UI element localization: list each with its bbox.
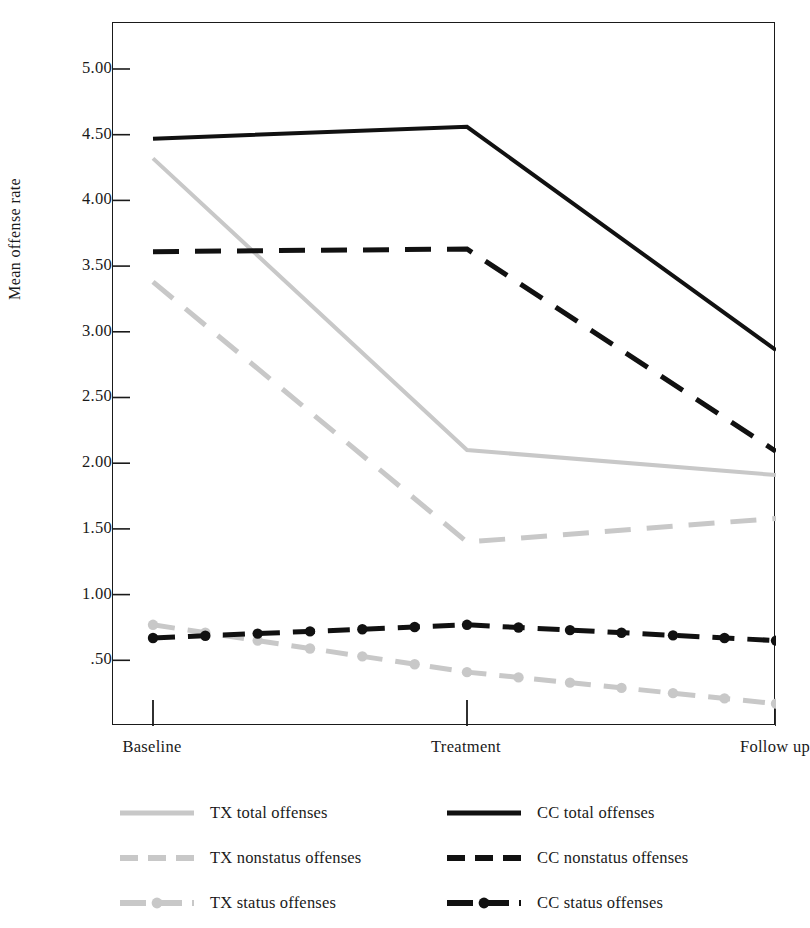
series-marker xyxy=(252,628,262,638)
series-marker xyxy=(616,628,626,638)
legend-swatch-dashed-icon xyxy=(445,851,523,865)
series-marker xyxy=(409,659,419,669)
legend-item[interactable]: TX total offenses xyxy=(118,790,361,835)
series-marker xyxy=(513,622,523,632)
legend-swatch-dash-dot-icon xyxy=(118,896,196,910)
series-line xyxy=(153,127,776,350)
series-marker xyxy=(771,635,776,645)
legend-swatch-dash-dot-icon xyxy=(445,896,523,910)
y-axis-tick-labels: 5.004.504.003.503.002.502.001.501.00.50 xyxy=(0,0,112,928)
series-marker xyxy=(565,625,575,635)
y-axis-tick-label: .50 xyxy=(20,649,112,669)
series-marker xyxy=(148,633,158,643)
series-marker xyxy=(668,688,678,698)
legend-swatch-dashed-icon xyxy=(118,851,196,865)
y-axis-tick-label: 5.00 xyxy=(20,58,112,78)
legend-item[interactable]: CC total offenses xyxy=(445,790,688,835)
legend-label: TX nonstatus offenses xyxy=(210,848,361,868)
series-marker xyxy=(200,631,210,641)
series-marker xyxy=(616,683,626,693)
series-marker xyxy=(462,667,472,677)
series-marker xyxy=(719,693,729,703)
legend-swatch-solid-icon xyxy=(118,806,196,820)
series-marker xyxy=(305,643,315,653)
y-axis-tick-label: 3.00 xyxy=(20,321,112,341)
legend-item[interactable]: CC status offenses xyxy=(445,880,688,925)
y-axis-tick-label: 3.50 xyxy=(20,255,112,275)
legend-label: CC total offenses xyxy=(537,803,655,823)
x-axis-tick-label: Baseline xyxy=(122,737,181,757)
y-axis-tick-label: 4.50 xyxy=(20,124,112,144)
legend-column-cc: CC total offensesCC nonstatus offensesCC… xyxy=(445,790,688,925)
series-marker xyxy=(305,626,315,636)
series-marker xyxy=(357,651,367,661)
legend-item[interactable]: CC nonstatus offenses xyxy=(445,835,688,880)
legend-label: TX total offenses xyxy=(210,803,328,823)
series-marker xyxy=(719,633,729,643)
y-axis-tick-label: 1.00 xyxy=(20,584,112,604)
y-axis-tick-label: 4.00 xyxy=(20,189,112,209)
legend-label: CC nonstatus offenses xyxy=(537,848,688,868)
series-marker xyxy=(462,620,472,630)
series-marker xyxy=(565,677,575,687)
legend-label: TX status offenses xyxy=(210,893,336,913)
chart-legend: TX total offensesTX nonstatus offensesTX… xyxy=(0,790,791,925)
legend-item[interactable]: TX nonstatus offenses xyxy=(118,835,361,880)
series-marker xyxy=(148,620,158,630)
legend-item[interactable]: TX status offenses xyxy=(118,880,361,925)
y-axis-tick-label: 2.00 xyxy=(20,452,112,472)
series-line xyxy=(153,158,776,475)
series-marker xyxy=(357,624,367,634)
y-axis-tick-label: 1.50 xyxy=(20,518,112,538)
series-marker xyxy=(409,622,419,632)
x-axis-tick-label: Follow up xyxy=(740,737,810,757)
legend-label: CC status offenses xyxy=(537,893,663,913)
x-axis-tick-label: Treatment xyxy=(431,737,501,757)
plot-area xyxy=(112,22,775,725)
series-line xyxy=(153,249,776,451)
legend-swatch-solid-icon xyxy=(445,806,523,820)
legend-column-tx: TX total offensesTX nonstatus offensesTX… xyxy=(118,790,361,925)
series-marker xyxy=(668,630,678,640)
y-axis-tick-label: 2.50 xyxy=(20,386,112,406)
series-marker xyxy=(513,672,523,682)
series-line xyxy=(153,282,776,542)
plot-svg xyxy=(113,23,776,726)
series-marker xyxy=(771,698,776,708)
